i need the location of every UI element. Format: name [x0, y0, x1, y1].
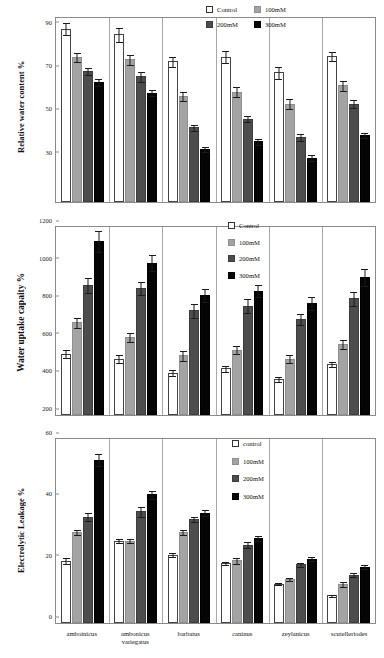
legend-item-200mm[interactable]: 200mM	[232, 475, 264, 483]
error-bar	[258, 536, 259, 542]
legend-item-control[interactable]: control	[232, 440, 264, 448]
legend-item-200mm[interactable]: 200mM	[206, 21, 238, 29]
bar-200mm[interactable]	[83, 285, 93, 415]
bar-300mm[interactable]	[307, 303, 317, 415]
bar-100mm[interactable]	[72, 532, 82, 623]
bar-100mm[interactable]	[232, 92, 242, 202]
legend-item-100mm[interactable]: 100mM	[254, 6, 286, 14]
legend-item-300mm[interactable]: 300mM	[228, 272, 260, 280]
bar-control[interactable]	[274, 584, 284, 623]
group-separator	[216, 439, 217, 623]
plot-area-wuc: 20040060080010001200	[55, 226, 376, 416]
bar-100mm[interactable]	[72, 57, 82, 202]
bar-control[interactable]	[274, 72, 284, 202]
bar-300mm[interactable]	[360, 135, 370, 202]
bar-control[interactable]	[327, 56, 337, 202]
bar-control[interactable]	[168, 61, 178, 202]
legend-label: 300mM	[239, 272, 260, 280]
bar-control[interactable]	[114, 541, 124, 623]
bar-200mm[interactable]	[243, 306, 253, 415]
legend-item-100mm[interactable]: 100mM	[232, 458, 264, 466]
bar-100mm[interactable]	[232, 350, 242, 415]
bar-set	[269, 18, 322, 202]
bar-200mm[interactable]	[296, 137, 306, 202]
bar-300mm[interactable]	[200, 513, 210, 623]
bar-control[interactable]	[61, 29, 71, 202]
bar-200mm[interactable]	[136, 288, 146, 415]
bar-100mm[interactable]	[338, 85, 348, 202]
error-bar	[247, 299, 248, 313]
bar-300mm[interactable]	[360, 277, 370, 415]
error-bar	[194, 517, 195, 523]
bar-control[interactable]	[327, 364, 337, 415]
bar-100mm[interactable]	[72, 322, 82, 415]
bar-control[interactable]	[61, 354, 71, 415]
bar-100mm[interactable]	[338, 344, 348, 415]
bar-200mm[interactable]	[189, 310, 199, 415]
bar-100mm[interactable]	[125, 541, 135, 623]
bar-100mm[interactable]	[232, 560, 242, 623]
legend-item-100mm[interactable]: 100mM	[228, 239, 260, 247]
bar-200mm[interactable]	[243, 545, 253, 624]
bar-control[interactable]	[168, 373, 178, 415]
bar-200mm[interactable]	[349, 575, 359, 623]
legend-item-300mm[interactable]: 300mM	[254, 21, 286, 29]
error-bar	[225, 562, 226, 566]
bar-200mm[interactable]	[296, 319, 306, 415]
legend-swatch-icon	[232, 440, 239, 447]
bar-300mm[interactable]	[200, 149, 210, 202]
bar-200mm[interactable]	[83, 71, 93, 202]
bar-200mm[interactable]	[189, 127, 199, 202]
bar-300mm[interactable]	[360, 567, 370, 623]
error-bar	[172, 57, 173, 68]
bar-100mm[interactable]	[179, 532, 189, 623]
legend-item-control[interactable]: Control	[206, 6, 238, 14]
bar-100mm[interactable]	[285, 359, 295, 415]
bar-200mm[interactable]	[136, 76, 146, 202]
bar-200mm[interactable]	[349, 104, 359, 202]
bar-control[interactable]	[221, 368, 231, 415]
bar-200mm[interactable]	[243, 119, 253, 202]
legend-item-200mm[interactable]: 200mM	[228, 255, 260, 263]
bar-control[interactable]	[114, 34, 124, 202]
bar-100mm[interactable]	[338, 584, 348, 623]
bar-group	[109, 227, 162, 415]
error-bar	[311, 557, 312, 562]
bar-300mm[interactable]	[254, 538, 264, 623]
bar-200mm[interactable]	[83, 517, 93, 623]
bar-300mm[interactable]	[254, 141, 264, 202]
bar-set	[322, 227, 375, 415]
error-bar	[364, 269, 365, 287]
legend-item-control[interactable]: Control	[228, 222, 260, 230]
bar-control[interactable]	[221, 563, 231, 623]
bar-100mm[interactable]	[285, 579, 295, 623]
bar-300mm[interactable]	[94, 241, 104, 415]
bar-300mm[interactable]	[94, 460, 104, 623]
bar-300mm[interactable]	[200, 295, 210, 415]
bar-300mm[interactable]	[254, 291, 264, 415]
bar-200mm[interactable]	[136, 511, 146, 623]
bar-100mm[interactable]	[179, 96, 189, 202]
bar-control[interactable]	[61, 561, 71, 623]
legend-item-300mm[interactable]: 300mM	[232, 493, 264, 501]
bar-control[interactable]	[274, 379, 284, 415]
bar-control[interactable]	[168, 555, 178, 623]
bar-set	[109, 18, 162, 202]
bar-200mm[interactable]	[349, 298, 359, 415]
bar-100mm[interactable]	[179, 355, 189, 415]
bar-300mm[interactable]	[307, 158, 317, 202]
bar-200mm[interactable]	[296, 564, 306, 623]
bar-300mm[interactable]	[94, 82, 104, 202]
bar-100mm[interactable]	[125, 59, 135, 202]
bar-300mm[interactable]	[147, 93, 157, 202]
bar-control[interactable]	[221, 57, 231, 202]
bar-100mm[interactable]	[285, 104, 295, 202]
bar-control[interactable]	[327, 595, 337, 623]
bar-300mm[interactable]	[147, 263, 157, 415]
y-tick-label: 20	[46, 551, 57, 558]
bar-control[interactable]	[114, 359, 124, 415]
bar-100mm[interactable]	[125, 337, 135, 415]
bar-200mm[interactable]	[189, 519, 199, 623]
bar-300mm[interactable]	[307, 559, 317, 623]
bar-300mm[interactable]	[147, 494, 157, 623]
